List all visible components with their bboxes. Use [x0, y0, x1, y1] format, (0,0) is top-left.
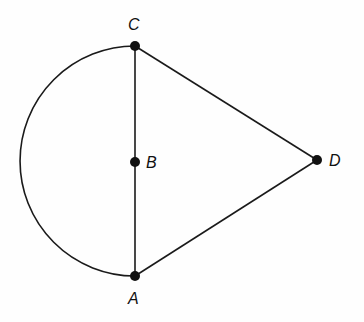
point-b: [130, 157, 140, 167]
point-d: [312, 155, 322, 165]
point-c: [130, 41, 140, 51]
label-c: C: [128, 16, 140, 33]
semicircle-arc-ca: [20, 46, 135, 276]
point-a: [130, 271, 140, 281]
diagram-canvas: C B A D: [0, 0, 364, 322]
label-a: A: [127, 290, 139, 307]
label-d: D: [329, 152, 341, 169]
geometry-diagram: C B A D: [0, 0, 364, 322]
segment-cd: [135, 46, 317, 160]
label-b: B: [146, 154, 157, 171]
segment-ad: [135, 160, 317, 276]
